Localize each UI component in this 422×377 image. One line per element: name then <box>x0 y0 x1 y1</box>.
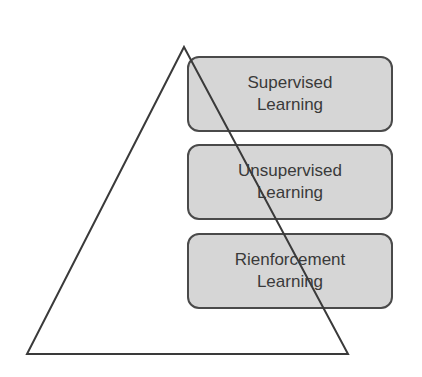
layer-label-line1: Supervised <box>247 72 332 94</box>
layer-label-line2: Learning <box>257 271 323 293</box>
layer-label-line2: Learning <box>257 182 323 204</box>
layer-label-line1: Rienforcement <box>235 249 346 271</box>
layer-box-unsupervised-learning: Unsupervised Learning <box>187 144 393 220</box>
layer-box-supervised-learning: Supervised Learning <box>187 56 393 132</box>
layer-box-reinforcement-learning: Rienforcement Learning <box>187 233 393 309</box>
layer-label-line2: Learning <box>257 94 323 116</box>
layer-label-line1: Unsupervised <box>238 160 342 182</box>
